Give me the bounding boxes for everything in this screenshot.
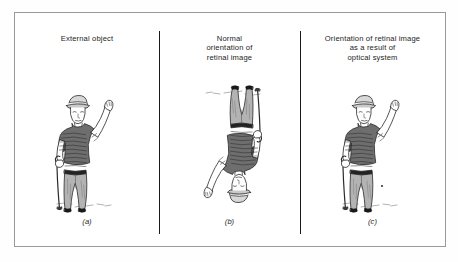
panel-c-title: Orientation of retinal image as a result…	[325, 34, 420, 64]
panel-c: Orientation of retinal image as a result…	[300, 13, 445, 246]
panel-a: External object	[15, 13, 159, 246]
man-with-cane-inverted-icon	[182, 85, 278, 213]
panel-a-caption: (a)	[82, 217, 91, 226]
panel-b: Normal orientation of retinal image	[159, 13, 300, 246]
panel-container: External object	[15, 13, 445, 246]
panel-a-title: External object	[61, 34, 113, 64]
figure-root: External object	[0, 0, 458, 262]
panel-c-caption: (c)	[368, 217, 377, 226]
panel-divider-2	[300, 31, 301, 234]
man-with-cane-upright-icon	[325, 85, 421, 213]
panel-divider-1	[159, 31, 160, 234]
man-with-cane-upright-icon	[39, 85, 135, 213]
panel-c-artwork	[300, 64, 445, 217]
panel-b-caption: (b)	[225, 217, 234, 226]
panel-a-artwork	[15, 64, 159, 217]
panel-b-title: Normal orientation of retinal image	[206, 34, 252, 64]
panel-b-artwork	[159, 64, 300, 217]
